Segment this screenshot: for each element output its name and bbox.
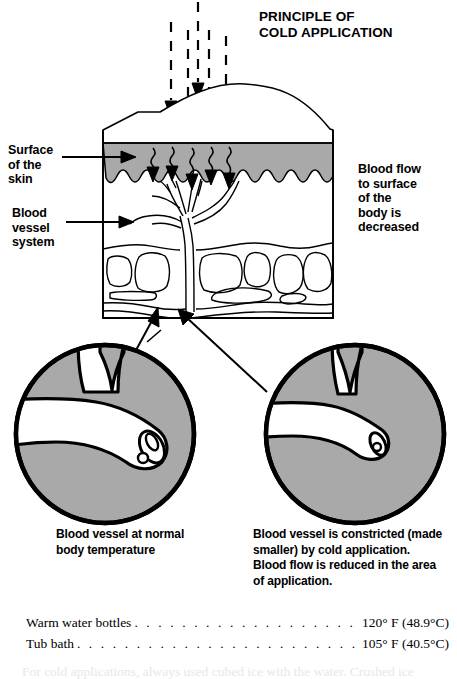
- title-line-1: PRINCIPLE OF: [259, 9, 393, 25]
- title-line-2: COLD APPLICATION: [259, 25, 393, 41]
- label-blood-vessel-system: Blood vessel system: [12, 206, 55, 250]
- caption-constricted-vessel: Blood vessel is constricted (made smalle…: [253, 527, 442, 589]
- normal-blood-vessel-inset: [8, 340, 194, 523]
- caption-normal-vessel: Blood vessel at normal body temperature: [56, 527, 184, 558]
- cold-arrow-1: [192, 2, 204, 100]
- dot-leader: . . . . . . . . . . . . . . . . . . . . …: [77, 636, 359, 652]
- label-blood-flow-decreased: Blood flow to surface of the body is dec…: [358, 162, 421, 235]
- temperature-item-value: 105° F (40.5°C): [362, 636, 449, 652]
- constricted-blood-vessel-inset: [258, 340, 444, 523]
- connector-right-inset: [178, 309, 267, 392]
- pointer-blood-vessel-system: [66, 216, 134, 228]
- temperature-item-name: Tub bath: [26, 636, 74, 652]
- leader-left-circle: [147, 330, 161, 342]
- cut-off-paragraph: For cold applications, always used cubed…: [0, 664, 457, 679]
- label-surface-of-the-skin: Surface of the skin: [8, 143, 53, 187]
- table-row: Warm water bottles . . . . . . . . . . .…: [0, 612, 457, 633]
- dot-leader: . . . . . . . . . . . . . . . . . . . . …: [134, 615, 359, 631]
- pointer-surface-of-skin: [62, 151, 136, 163]
- tissue-block-outline: [103, 84, 333, 318]
- temperature-item-name: Warm water bottles: [26, 615, 131, 631]
- table-row: Tub bath . . . . . . . . . . . . . . . .…: [0, 633, 457, 654]
- temperature-item-value: 120° F (48.9°C): [362, 615, 449, 631]
- page-title: PRINCIPLE OF COLD APPLICATION: [259, 9, 393, 41]
- temperature-list: Warm water bottles . . . . . . . . . . .…: [0, 612, 457, 654]
